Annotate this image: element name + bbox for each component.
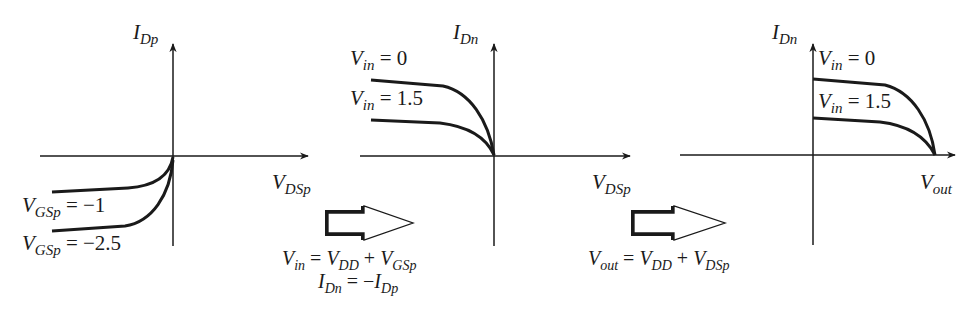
curve-label: VGSp = −1 [22,195,105,220]
hollow-right-arrow-icon [325,206,413,240]
y-axis-label: IDn [772,22,797,47]
y-axis-label: IDn [453,22,478,47]
transform-equation: Vout = VDD + VDSp [588,248,729,273]
y-axis-label: IDp [133,22,158,47]
x-axis-label: VDSp [592,172,631,197]
curve-label: Vin = 1.5 [818,91,891,116]
curve-vin-1.5 [371,120,494,155]
curve-label: Vin = 1.5 [350,88,423,113]
curve-vgsp-minus-1 [52,157,173,192]
curve-label: VGSp = −2.5 [22,233,121,258]
panel-mirrored [360,44,630,246]
curve-label: Vin = 0 [350,48,407,73]
curve-vin-1.5 [813,118,935,155]
panel-shifted [680,44,955,245]
transform-equation: IDn = −IDp [318,271,398,296]
x-axis-label: Vout [920,172,952,197]
curve-label: Vin = 0 [818,48,875,73]
x-axis-label: VDSp [272,172,311,197]
hollow-right-arrow-icon [631,206,725,240]
